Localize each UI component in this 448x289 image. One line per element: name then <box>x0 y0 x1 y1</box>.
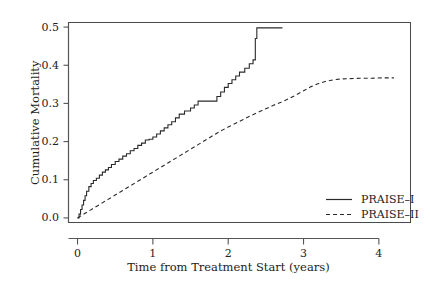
series-praise-ii-line <box>78 78 394 218</box>
data-series-group <box>78 28 394 218</box>
x-tick-label: 1 <box>149 248 156 259</box>
legend-label-praise-ii: PRAISE–II <box>361 209 419 220</box>
y-tick-label: 0.2 <box>42 136 60 147</box>
x-tick-label: 2 <box>225 248 232 259</box>
legend-label-praise-i: PRAISE–I <box>361 194 414 205</box>
x-tick-label: 3 <box>300 248 307 259</box>
x-tick-label: 0 <box>74 248 81 259</box>
legend-sample-lines <box>326 200 352 215</box>
y-tick-label: 0.0 <box>42 212 60 223</box>
x-axis-title: Time from Treatment Start (years) <box>127 262 329 274</box>
y-tick-label: 0.1 <box>42 174 60 185</box>
series-praise-i-line <box>78 28 283 218</box>
y-axis-ticks <box>64 27 69 218</box>
y-tick-label: 0.4 <box>42 60 60 71</box>
cumulative-mortality-plot <box>0 0 448 289</box>
x-axis-ticks <box>78 239 379 245</box>
chart-figure: 0.0 0.1 0.2 0.3 0.4 0.5 0 1 2 3 4 Cumula… <box>0 0 448 289</box>
x-tick-label: 4 <box>375 248 382 259</box>
y-tick-label: 0.5 <box>42 22 60 33</box>
y-axis-title: Cumulative Mortality <box>30 60 42 184</box>
y-tick-label: 0.3 <box>42 98 60 109</box>
